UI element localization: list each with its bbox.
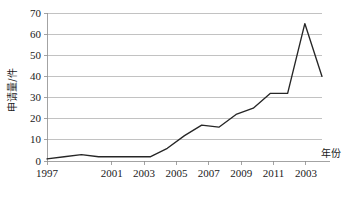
y-tick-labels: 70 60 50 40 30 20 10 0: [30, 7, 42, 167]
y-tick-label-50: 50: [30, 49, 42, 61]
x-tick-label-7: 2003: [295, 167, 318, 179]
y-tick-label-0: 0: [36, 155, 42, 167]
x-tick-label-3: 2005: [165, 167, 188, 179]
plot-background: [47, 13, 322, 161]
x-tick-marks: [47, 161, 306, 165]
x-tick-label-4: 2007: [198, 167, 221, 179]
y-axis-title: 申请量/件: [6, 68, 18, 111]
line-chart: 70 60 50 40 30 20 10 0 1997 2001 2003 20…: [0, 0, 351, 197]
y-tick-marks: [44, 13, 48, 161]
y-tick-label-30: 30: [30, 91, 42, 103]
y-tick-label-60: 60: [30, 28, 42, 40]
y-tick-label-10: 10: [30, 133, 42, 145]
chart-container: 70 60 50 40 30 20 10 0 1997 2001 2003 20…: [0, 0, 351, 197]
y-tick-label-40: 40: [30, 70, 42, 82]
x-tick-labels: 1997 2001 2003 2005 2007 2009 2011 2003: [36, 167, 317, 179]
x-tick-label-2: 2003: [133, 167, 156, 179]
x-axis-title: 年份: [321, 147, 341, 159]
y-tick-label-20: 20: [30, 112, 42, 124]
y-tick-label-70: 70: [30, 7, 42, 19]
x-tick-label-1: 2001: [101, 167, 123, 179]
x-tick-label-0: 1997: [36, 167, 59, 179]
x-tick-label-6: 2011: [263, 167, 285, 179]
x-tick-label-5: 2009: [230, 167, 253, 179]
